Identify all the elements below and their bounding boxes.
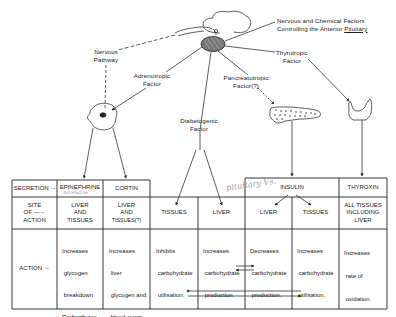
thyrotropic-line-2: Factor [271,57,313,65]
secretion-thyroxin: THYROXIN [339,184,387,191]
thyroid-icon [349,99,372,120]
action-line: Increases [109,248,150,255]
secretion-insulin: INSULIN [262,184,322,191]
adrenotropic-factor-label: Adrenotropic Factor [130,72,174,87]
site-line: LIVER [103,202,150,209]
action-line: carbohydrate [203,270,245,277]
title-label: Nervous and Chemical Factors Controlling… [277,17,367,32]
action-cell-insulin-liver: Decreases carbohydrate production. [250,233,292,307]
thyrotropic-line-1: Thyrotropic [271,49,313,57]
site-line: TISSUES [150,209,198,216]
action-line: glycogen [62,270,103,277]
pituitary-icon [201,37,225,52]
action-line: Decreases [250,248,292,255]
action-line: carbohydrate [156,270,198,277]
adrenotropic-line-1: Adrenotropic [130,72,174,80]
site-cell-diabetogenic-liver: LIVER [198,209,245,216]
action-line: rate of [344,273,387,281]
action-line: production. [250,292,292,299]
thyrotropic-factor-label: Thyrotropic Factor [271,49,313,64]
site-line-2: OF —→ [12,209,57,216]
action-line: Inhibits [156,248,198,255]
action-line: Increases [203,248,245,255]
action-line: breakdown [62,292,103,299]
nervous-pathway-label: Nervous Pathway [90,48,122,63]
site-line: TISSUES(?) [103,217,150,224]
row-header-secretion: SECRETION → [12,185,58,192]
action-line: utilisation. [297,292,339,299]
action-line: glycogen and [109,292,150,299]
diabetogenic-line-2: Factor [176,125,222,133]
action-line: production. [203,292,245,299]
pituitary-underlined: Pituitary [344,25,367,32]
pancreatotropic-line-1: Pancreatotropic [218,74,274,82]
action-cell-diabetogenic-tissues: Inhibits carbohydrate utilisation. [156,233,198,307]
site-cell-cortin: LIVER AND TISSUES(?) [103,202,150,224]
site-line: LIVER [198,209,245,216]
action-line: Increases [344,250,387,258]
cortin-label: CORTIN [115,185,138,191]
site-line: INCLUDING [339,209,387,216]
site-line: TISSUES [57,217,103,224]
adrenotropic-line-2: Factor [130,80,174,88]
site-line-3: ACTION [12,217,57,224]
title-line-2-text: Controlling the Anterior [277,25,342,32]
brain-icon [175,11,251,36]
action-line: Increases [62,248,103,255]
secretion-cortin: CORTIN [103,185,150,192]
row-header-site-of-action: SITE OF —→ ACTION [12,202,57,224]
site-line: AND [103,209,150,216]
diabetogenic-line-1: Diabetogenic [176,117,222,125]
site-cell-insulin-tissues: TISSUES [292,209,339,216]
site-line: LIVER [339,217,387,224]
site-cell-diabetogenic-tissues: TISSUES [150,209,198,216]
row-header-action: ACTION → [12,265,57,272]
action-line: carbohydrate [297,270,339,277]
pancreatotropic-factor-label: Pancreatotropic Factor(?) [218,74,274,89]
action-line: liver [109,270,150,277]
action-line: Increases [297,248,339,255]
site-line: TISSUES [292,209,339,216]
secretion-label: SECRETION → [14,185,57,191]
thyroxin-label: THYROXIN [347,184,378,190]
title-line-1: Nervous and Chemical Factors [277,17,367,25]
action-label: ACTION → [19,265,49,271]
adrenaline-note: Adrenaline [63,190,88,195]
action-cell-epinephrine: Increases glycogen breakdown Redistribut… [62,233,103,317]
action-cell-cortin: Increases liver glycogen and blood sugar [109,233,150,317]
action-line: utilisation. [156,292,198,299]
site-cell-epinephrine: LIVER AND TISSUES [57,202,103,224]
adrenal-gland-icon [87,103,116,130]
site-line: ALL TISSUES [339,202,387,209]
site-line-1: SITE [12,202,57,209]
diabetogenic-factor-label: Diabetogenic Factor [176,117,222,132]
title-line-2: Controlling the Anterior Pituitary [277,25,367,33]
insulin-label: INSULIN [280,184,304,190]
pancreas-icon [270,107,321,123]
site-cell-thyroxin: ALL TISSUES INCLUDING LIVER [339,202,387,224]
action-cell-thyroxin: Increases rate of oxidation in tissues a… [344,234,387,317]
nervous-pathway-line-2: Pathway [90,56,122,64]
pancreatotropic-line-2: Factor(?) [218,82,274,90]
action-line: oxidation [344,296,387,304]
site-cell-insulin-liver: LIVER [245,209,292,216]
action-cell-insulin-tissues: Increases carbohydrate utilisation. [297,233,339,307]
site-line: LIVER [245,209,292,216]
handwritten-adrenaline: Adrenaline [63,190,88,195]
nervous-pathway-line-1: Nervous [90,48,122,56]
site-line: AND [57,209,103,216]
action-cell-diabetogenic-liver: Increases carbohydrate production. [203,233,245,307]
site-line: LIVER [57,202,103,209]
action-line: carbohydrate [250,270,292,277]
